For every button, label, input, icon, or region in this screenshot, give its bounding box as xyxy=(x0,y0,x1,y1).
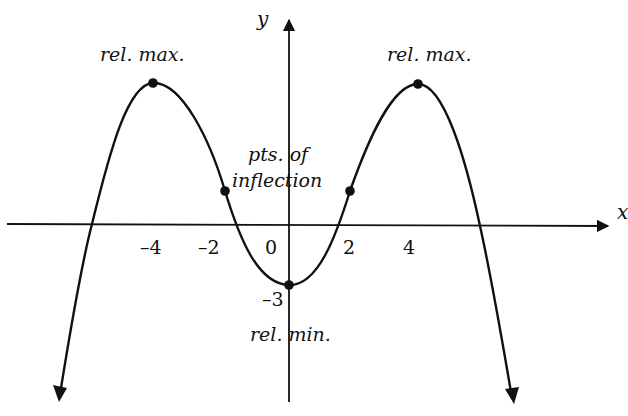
x-tick-label: –4 xyxy=(140,238,162,257)
right-end-arrow-icon xyxy=(505,387,519,404)
inflection-right-point xyxy=(345,186,355,196)
inflection-label-line2: inflection xyxy=(232,171,322,190)
x-axis xyxy=(7,224,608,226)
x-axis-label: x xyxy=(617,202,628,222)
rel-min-label: rel. min. xyxy=(250,325,331,344)
inflection-left-point xyxy=(220,186,230,196)
y-tick-label: –3 xyxy=(262,290,284,309)
inflection-label-line1: pts. of xyxy=(248,145,308,164)
y-axis-label: y xyxy=(257,9,268,29)
x-tick-label: 2 xyxy=(343,238,355,257)
x-tick-label: –2 xyxy=(198,238,220,257)
left-end-arrow-icon xyxy=(53,385,67,402)
x-tick-label: 4 xyxy=(403,238,415,257)
rel-min-point xyxy=(284,280,294,290)
rel-max-left-label: rel. max. xyxy=(100,45,185,64)
rel-max-right-point xyxy=(413,79,423,89)
rel-max-left-point xyxy=(148,78,158,88)
rel-max-right-label: rel. max. xyxy=(387,45,472,64)
function-curve xyxy=(61,83,511,392)
x-tick-label: 0 xyxy=(265,238,277,257)
